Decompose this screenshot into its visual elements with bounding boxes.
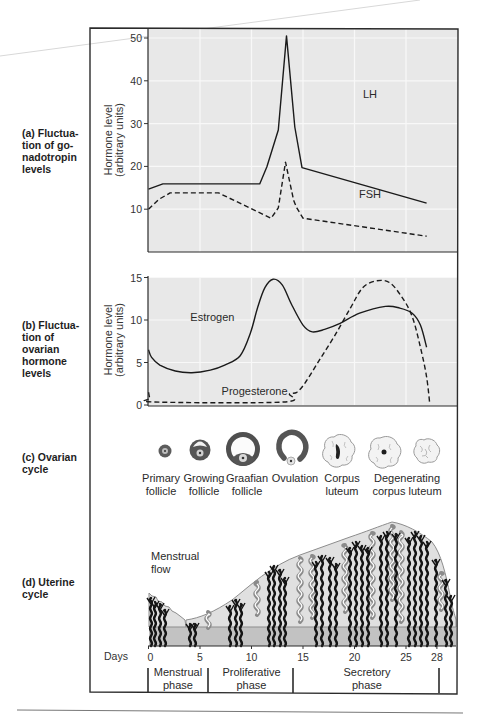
growing-label-line1: Growing [184,472,225,484]
ovarian-cycle-stages: PrimaryfollicleGrowingfollicleGraafianfo… [142,432,441,497]
menstrual-flow-label-line1: Menstrual [151,550,199,562]
day-tick-label: 20 [349,651,361,663]
lh-label: LH [363,88,377,100]
ovarian-hormone-chart: 051015 EstrogenProgesterone Hormone leve… [102,272,458,412]
degenerating-corpus-luteum-small-icon [414,439,440,463]
y-axis-ticks: 1020304050 [130,32,148,215]
degenerating-label-line1: Degenerating [374,472,440,484]
primary-follicle-icon [159,445,172,458]
growing-label-line2: follicle [189,485,220,497]
ovulation-label-line1: Ovulation [272,472,318,484]
day-tick-label: 10 [246,651,258,663]
estrogen-label: Estrogen [190,311,234,323]
y-tick-label: 15 [130,272,142,284]
degenerating-corpus-luteum-icon [369,436,401,468]
phase-row: MenstrualphaseProliferativephaseSecretor… [148,666,439,693]
y-tick-label: 20 [130,160,142,172]
growing-follicle-icon [190,440,211,461]
bottom-rule [17,710,463,713]
day-tick-label: 15 [297,651,309,663]
day-tick-label: 28 [431,651,443,663]
stage-labels: PrimaryfollicleGrowingfollicleGraafianfo… [142,472,441,497]
y-tick-label: 30 [130,118,142,130]
fsh-label: FSH [359,188,381,200]
y-tick-label: 10 [130,203,142,215]
phase-label-line2: phase [237,679,267,691]
ovulation-icon [279,432,306,465]
corpus-luteum-label-line1: Corpus [324,472,360,484]
phase-label-line1: Proliferative [222,666,280,678]
phase-label-line2: phase [352,679,382,691]
y-tick-label: 50 [130,32,142,44]
uterine-lining-illustration: Menstrual flow [147,522,456,646]
day-tick-label: 0 [148,651,154,663]
y-axis-title: Hormone level (arbitrary units) [102,303,125,377]
graafian-label-line2: follicle [232,485,263,497]
graafian-follicle-icon [229,435,258,467]
day-tick-labels: 051015202528 [148,646,443,663]
phase-label-line2: phase [163,679,193,691]
y-axis-ticks: 051015 [130,272,148,412]
y-tick-label: 10 [130,314,142,326]
day-tick-label: 5 [197,651,203,663]
corpus-luteum-icon [323,434,355,467]
days-axis-label: Days [104,650,128,662]
y-axis-title-line2: (arbitrary units) [113,103,125,177]
progesterone-label: Progesterone [222,385,288,397]
corpus-luteum-label-line2: luteum [325,485,358,497]
phase-label-line1: Secretory [343,666,391,678]
menstrual-cycle-figure: 1020304050 LHFSH Hormone level (arbitrar… [0,0,477,720]
y-tick-label: 5 [136,357,142,369]
primary-label-line1: Primary [142,472,180,484]
day-tick-label: 25 [400,651,412,663]
y-axis-title: Hormone level (arbitrary units) [102,103,125,177]
gonadotropin-chart: 1020304050 LHFSH Hormone level (arbitrar… [102,29,458,252]
phase-label-line1: Menstrual [154,666,202,678]
menstrual-flow-label-line2: flow [151,563,171,575]
y-axis-title-line2: (arbitrary units) [113,303,125,377]
graafian-label-line1: Graafian [226,472,268,484]
degenerating-label-line2: corpus luteum [372,485,441,497]
y-tick-label: 40 [130,75,142,87]
primary-label-line2: follicle [146,485,177,497]
y-tick-label: 0 [136,399,142,411]
